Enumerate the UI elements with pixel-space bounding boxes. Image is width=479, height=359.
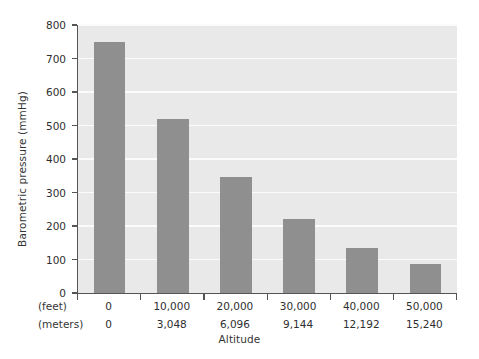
y-tick-mark bbox=[72, 24, 77, 25]
x-tick-label-feet: 50,000 bbox=[384, 300, 464, 312]
gridline bbox=[78, 58, 457, 60]
bar bbox=[283, 219, 315, 293]
feet-row-label: (feet) bbox=[38, 300, 67, 312]
y-tick-mark bbox=[72, 158, 77, 159]
plot-area bbox=[77, 25, 457, 294]
y-tick-mark bbox=[72, 58, 77, 59]
y-tick-mark bbox=[72, 225, 77, 226]
y-tick-mark bbox=[72, 259, 77, 260]
gridline bbox=[78, 24, 457, 26]
gridline bbox=[78, 259, 457, 261]
y-tick-mark bbox=[72, 192, 77, 193]
gridline bbox=[78, 192, 457, 194]
y-tick-mark bbox=[72, 91, 77, 92]
gridline bbox=[78, 225, 457, 227]
bar bbox=[94, 42, 126, 293]
y-tick-label: 700 bbox=[26, 54, 66, 64]
y-tick-label: 0 bbox=[26, 288, 66, 298]
gridline bbox=[78, 91, 457, 93]
y-tick-label: 300 bbox=[26, 188, 66, 198]
gridline bbox=[78, 158, 457, 160]
gridline bbox=[78, 125, 457, 127]
y-tick-label: 600 bbox=[26, 87, 66, 97]
y-tick-label: 100 bbox=[26, 255, 66, 265]
x-tick-label-meters: 15,240 bbox=[384, 318, 464, 330]
bar bbox=[157, 119, 189, 293]
bar bbox=[346, 248, 378, 293]
bar bbox=[410, 264, 442, 293]
bar bbox=[220, 177, 252, 293]
y-tick-label: 200 bbox=[26, 221, 66, 231]
bar-chart-figure: Barometric pressure (mmHg) 0100200300400… bbox=[0, 0, 479, 359]
y-axis-title: Barometric pressure (mmHg) bbox=[11, 24, 33, 314]
y-tick-mark bbox=[72, 125, 77, 126]
y-tick-label: 800 bbox=[26, 20, 66, 30]
x-axis-title: Altitude bbox=[0, 333, 479, 345]
y-tick-label: 500 bbox=[26, 121, 66, 131]
y-tick-label: 400 bbox=[26, 154, 66, 164]
